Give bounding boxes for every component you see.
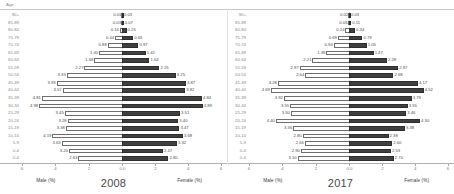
bar-female	[349, 51, 373, 56]
row-plot-area: 2.902.53	[249, 148, 448, 155]
value-label-female: 0.11	[352, 20, 360, 27]
value-label-male: 4.40	[267, 118, 275, 125]
value-label-female: 4.89	[204, 103, 212, 110]
bar-female	[122, 104, 202, 109]
value-label-male: 2.66	[296, 140, 304, 147]
row-plot-area: 2.662.60	[249, 140, 448, 147]
pyramid-row: 15-193.383.47	[0, 125, 227, 132]
value-label-female: 2.53	[392, 148, 400, 155]
value-label-male: 0.88	[99, 42, 107, 49]
bar-male	[39, 104, 122, 109]
bar-female	[122, 134, 182, 139]
x-axis-tick-label: 0.0	[119, 166, 125, 171]
pyramid-row: 10-142.802.38	[227, 133, 454, 140]
bar-female	[349, 134, 388, 139]
value-label-male: 2.21	[303, 57, 311, 64]
bar-female	[349, 66, 398, 71]
row-plot-area: 4.193.68	[22, 133, 221, 140]
row-plot-area: 0.020.03	[249, 12, 448, 19]
value-label-female: 2.25	[160, 65, 168, 72]
pyramid-rows-2008: 90+0.010.0385-890.030.0780-840.160.2575-…	[0, 12, 227, 162]
bar-female	[122, 36, 133, 41]
pyramid-row: 90+0.020.03	[227, 12, 454, 19]
age-group-label: 80-84	[2, 27, 19, 34]
row-plot-area: 2.802.38	[249, 133, 448, 140]
bar-male	[284, 96, 350, 101]
bar-male	[68, 119, 123, 124]
bar-male	[298, 156, 350, 161]
age-group-label: 40-44	[229, 87, 246, 94]
row-plot-area: 3.633.32	[22, 140, 221, 147]
row-plot-area: 3.453.51	[22, 110, 221, 117]
row-plot-area: 2.272.25	[22, 65, 221, 72]
row-plot-area: 3.102.70	[249, 155, 448, 162]
bar-female	[122, 88, 185, 93]
value-label-female: 3.40	[179, 118, 187, 125]
value-label-male: 1.38	[317, 50, 325, 57]
bar-female	[349, 73, 393, 78]
bar-female	[122, 149, 163, 154]
value-label-female: 3.46	[407, 110, 415, 117]
pyramid-rows-2017: 90+0.020.0385-890.060.1180-840.240.3475-…	[227, 12, 454, 162]
bar-female	[349, 156, 393, 161]
row-plot-area: 3.363.38	[249, 125, 448, 132]
pyramid-row: 75-790.690.79	[227, 35, 454, 42]
bar-female	[122, 119, 178, 124]
x-axis-tick-label: 6	[220, 166, 222, 171]
value-label-female: 3.32	[178, 140, 186, 147]
row-plot-area: 3.553.55	[249, 103, 448, 110]
pyramid-row: 10-144.193.68	[0, 133, 227, 140]
bar-male	[305, 73, 349, 78]
bar-male	[67, 73, 123, 78]
value-label-male: 4.81	[33, 95, 41, 102]
value-label-female: 0.03	[124, 12, 132, 19]
bar-female	[122, 156, 168, 161]
x-axis-tick-label: 6	[447, 166, 449, 171]
bar-female	[122, 96, 201, 101]
bar-female	[349, 43, 366, 48]
bar-female	[122, 111, 180, 116]
value-label-male: 3.36	[284, 125, 292, 132]
pyramid-row: 0-43.202.47	[0, 148, 227, 155]
row-plot-area: 3.383.47	[22, 125, 221, 132]
row-plot-area: 0.160.25	[22, 27, 221, 34]
age-group-label: 55-59	[229, 65, 246, 72]
value-label-female: 4.30	[421, 118, 429, 125]
row-plot-area: 0.060.11	[249, 20, 448, 27]
pyramid-row: 70-740.880.97	[0, 42, 227, 49]
age-group-label: 70-74	[2, 42, 19, 49]
pyramid-row: 60-642.212.28	[227, 57, 454, 64]
x-axis-2017: 6420.0246	[249, 163, 448, 170]
value-label-female: 3.68	[184, 133, 192, 140]
value-label-female: 2.38	[390, 133, 398, 140]
value-label-male: 3.45	[56, 110, 64, 117]
bar-female	[122, 51, 145, 56]
value-label-male: 3.28	[58, 118, 66, 125]
x-axis-tick-label: 4	[414, 166, 416, 171]
value-label-female: 3.51	[181, 110, 189, 117]
row-plot-area: 2.642.68	[249, 72, 448, 79]
value-label-male: 0.01	[113, 12, 121, 19]
bar-female	[349, 149, 391, 154]
pyramid-row: 25-293.453.51	[0, 110, 227, 117]
bar-female	[122, 43, 138, 48]
bar-male	[301, 149, 350, 154]
value-label-male: 3.93	[48, 80, 56, 87]
bar-male	[305, 141, 350, 146]
value-label-male: 3.57	[54, 87, 62, 94]
value-label-female: 0.07	[125, 20, 133, 27]
pyramid-row: 50-542.642.68	[227, 72, 454, 79]
pyramid-row: 70-740.941.05	[227, 42, 454, 49]
value-label-male: 2.27	[75, 65, 83, 72]
age-group-label: 45-49	[229, 80, 246, 87]
pyramid-row: 45-494.284.17	[227, 80, 454, 87]
bar-female	[349, 81, 417, 86]
value-label-female: 0.65	[134, 35, 142, 42]
value-label-male: 3.20	[60, 148, 68, 155]
bar-male	[338, 36, 350, 41]
age-axis-header: Age	[6, 2, 14, 7]
pyramid-row: 65-691.401.42	[0, 50, 227, 57]
bar-female	[349, 36, 362, 41]
value-label-female: 3.55	[409, 103, 417, 110]
bar-male	[108, 43, 123, 48]
